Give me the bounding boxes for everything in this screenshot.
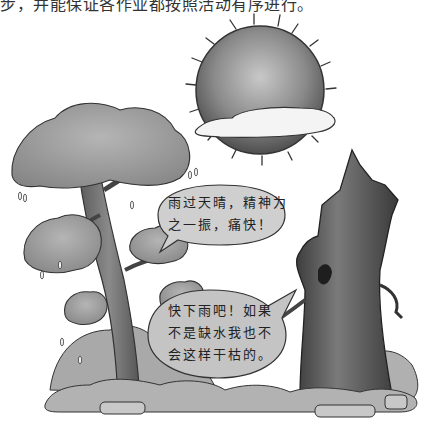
bubble-line: 快下雨吧！如果	[168, 300, 273, 322]
speech-text-dead-tree: 快下雨吧！如果 不是缺水我也不 会这样干枯的。	[168, 300, 273, 366]
bubble-line: 之一振，痛快！	[168, 214, 288, 236]
bubble-line: 雨过天晴，精神为	[168, 192, 288, 214]
bubble-line: 不是缺水我也不	[168, 322, 273, 344]
rock	[100, 402, 145, 414]
bubble-line: 会这样干枯的。	[168, 344, 273, 366]
dead-tree-trunk	[297, 150, 398, 395]
rock	[385, 395, 407, 409]
rock	[315, 405, 375, 417]
speech-text-live-tree: 雨过天晴，精神为 之一振，痛快！	[168, 192, 288, 236]
dead-branch-right	[380, 285, 402, 318]
